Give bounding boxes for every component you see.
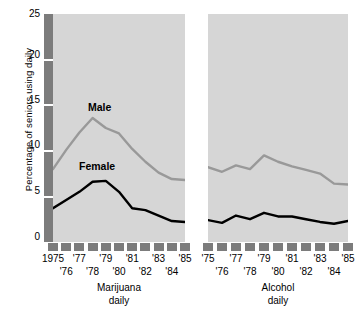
x-axis-tick-mark xyxy=(301,243,311,251)
x-tick-label: '83 xyxy=(313,253,326,264)
x-tick-label: '81 xyxy=(285,253,298,264)
x-tick-label: '75 xyxy=(201,253,214,264)
series-line-male xyxy=(53,118,185,180)
plot-panel-alcohol xyxy=(208,14,348,242)
x-axis-tick-mark xyxy=(61,243,71,251)
x-tick-label: '78 xyxy=(86,266,99,277)
x-tick-label: '80 xyxy=(112,266,125,277)
x-tick-label: '78 xyxy=(243,266,256,277)
series-label-male: Male xyxy=(88,101,111,113)
series-line-male xyxy=(208,155,348,184)
x-axis-ticks-marijuana xyxy=(44,243,185,251)
x-axis-tick-mark xyxy=(74,243,84,251)
y-axis-spine xyxy=(44,14,53,242)
y-tick-label-15: 15 xyxy=(29,95,40,105)
series-line-female xyxy=(53,181,185,222)
x-tick-label: '84 xyxy=(327,266,340,277)
x-axis-tick-mark xyxy=(154,243,164,251)
x-tick-label: '76 xyxy=(215,266,228,277)
x-axis-tick-mark xyxy=(329,243,339,251)
x-axis-tick-mark xyxy=(114,243,124,251)
y-tick-label-5: 5 xyxy=(34,186,40,196)
x-tick-label: '82 xyxy=(299,266,312,277)
x-axis-labels-alcohol-bottom: '76'78'80'82'84 xyxy=(208,266,348,278)
x-axis-tick-mark xyxy=(140,243,150,251)
series-line-female xyxy=(208,213,348,224)
x-tick-label: '80 xyxy=(271,266,284,277)
x-axis-tick-mark xyxy=(287,243,297,251)
x-tick-label: '82 xyxy=(139,266,152,277)
x-axis-tick-mark xyxy=(343,243,353,251)
marijuana-series-plot xyxy=(53,14,185,242)
x-axis-tick-mark xyxy=(259,243,269,251)
x-axis-labels-marijuana-bottom: '76'78'80'82'84 xyxy=(44,266,185,278)
x-axis-tick-mark xyxy=(315,243,325,251)
x-tick-label: 1975 xyxy=(42,253,64,264)
y-axis-tick-labels: 25 20 15 10 5 0 xyxy=(14,0,40,312)
y-axis-notch-5 xyxy=(44,196,53,198)
x-axis-tick-mark xyxy=(217,243,227,251)
x-tick-label: '85 xyxy=(178,253,191,264)
panel-caption-marijuana-line1: Marijuana xyxy=(53,281,185,294)
panel-caption-alcohol-line1: Alcohol xyxy=(208,281,348,294)
panel-caption-marijuana: Marijuana daily xyxy=(53,281,185,307)
x-axis-tick-mark xyxy=(273,243,283,251)
x-axis-labels-alcohol-top: '75'77'79'81'83'85 xyxy=(208,253,348,265)
y-axis-notch-10 xyxy=(44,150,53,152)
alcohol-series-plot xyxy=(208,14,348,242)
y-axis-notch-15 xyxy=(44,104,53,106)
x-axis-tick-mark xyxy=(167,243,177,251)
y-tick-label-20: 20 xyxy=(29,50,40,60)
x-tick-label: '76 xyxy=(60,266,73,277)
x-axis-tick-mark xyxy=(245,243,255,251)
panel-caption-alcohol-line2: daily xyxy=(208,294,348,307)
x-axis-tick-mark xyxy=(231,243,241,251)
y-axis-notch-20 xyxy=(44,59,53,61)
x-axis-tick-mark xyxy=(101,243,111,251)
x-axis-labels-marijuana-top: 1975'77'79'81'83'85 xyxy=(44,253,185,265)
x-axis-tick-mark xyxy=(48,243,58,251)
x-tick-label: '83 xyxy=(152,253,165,264)
x-axis-tick-mark xyxy=(203,243,213,251)
x-tick-label: '79 xyxy=(99,253,112,264)
x-tick-label: '79 xyxy=(257,253,270,264)
x-axis-ticks-alcohol xyxy=(208,243,348,251)
y-tick-label-10: 10 xyxy=(29,140,40,150)
chart-figure: Percentage of seniors using daily 25 20 … xyxy=(0,0,357,312)
plot-panel-marijuana xyxy=(53,14,185,242)
x-tick-label: '77 xyxy=(229,253,242,264)
x-tick-label: '81 xyxy=(126,253,139,264)
panel-caption-alcohol: Alcohol daily xyxy=(208,281,348,307)
series-label-female: Female xyxy=(79,160,115,172)
x-axis-tick-mark xyxy=(88,243,98,251)
x-tick-label: '77 xyxy=(73,253,86,264)
x-axis-tick-mark xyxy=(127,243,137,251)
x-tick-label: '84 xyxy=(165,266,178,277)
x-axis-tick-mark xyxy=(180,243,190,251)
panel-caption-marijuana-line2: daily xyxy=(53,294,185,307)
x-tick-label: '85 xyxy=(341,253,354,264)
y-tick-label-25: 25 xyxy=(29,9,40,19)
y-tick-label-0: 0 xyxy=(34,232,40,242)
